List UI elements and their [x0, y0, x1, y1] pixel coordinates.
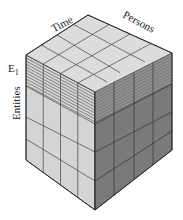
slice-label-e1: E1 — [8, 62, 19, 77]
data-cube-diagram: Time Persons Entities E1 — [0, 0, 183, 220]
axis-label-entities: Entities — [10, 86, 22, 120]
axis-label-persons: Persons — [121, 8, 157, 35]
